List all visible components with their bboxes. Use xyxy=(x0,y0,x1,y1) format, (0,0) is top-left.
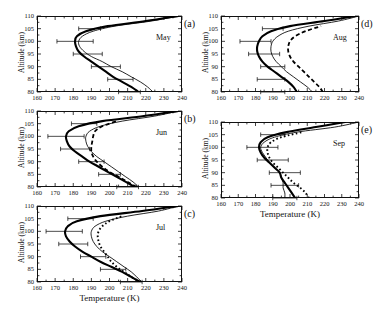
y-axis-title: Altitude (km) xyxy=(201,128,210,190)
x-axis-title-right: Temperature (K) xyxy=(240,209,340,219)
error-bar xyxy=(257,158,288,162)
x-axis-title-left: Temperature (K) xyxy=(60,293,160,303)
month-label: Sep xyxy=(333,139,345,148)
error-bar xyxy=(269,170,300,174)
x-tick-label: 240 xyxy=(349,200,369,207)
panel-letter: (e) xyxy=(361,124,372,135)
error-bar xyxy=(247,145,278,149)
y-tick-label: 110 xyxy=(199,118,218,125)
